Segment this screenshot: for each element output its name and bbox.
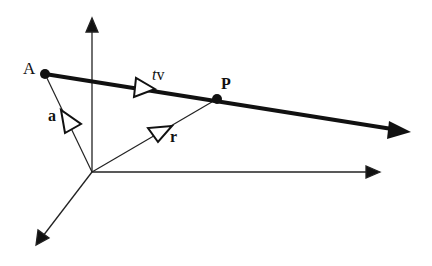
label-point-P: P: [221, 76, 231, 92]
label-vector-a: a: [48, 108, 56, 124]
x-axis: [43, 172, 92, 236]
vector-a-direction-icon: [61, 110, 81, 133]
label-point-A: A: [23, 60, 35, 77]
label-vector-r: r: [170, 129, 177, 145]
point-A: [40, 69, 50, 79]
x-axis-arrowhead: [36, 230, 49, 245]
point-P: [212, 94, 222, 104]
axes: [36, 18, 380, 245]
label-direction-v: v: [156, 66, 164, 83]
y-axis-arrowhead: [366, 166, 380, 178]
direction-markers: [61, 78, 172, 142]
vector-r-direction-icon: [148, 126, 172, 142]
z-axis-arrowhead: [86, 18, 98, 32]
vector-diagram: [0, 0, 432, 266]
line-arrowhead: [387, 121, 411, 139]
label-vector-tv: tv: [152, 67, 164, 83]
